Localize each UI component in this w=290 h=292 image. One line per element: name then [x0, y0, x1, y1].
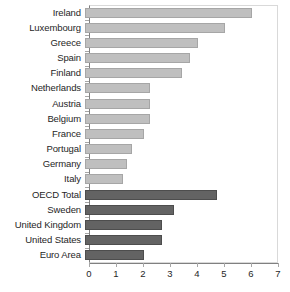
- bar-row: Luxembourg: [0, 20, 290, 35]
- bar-category-label: Germany: [0, 159, 85, 169]
- bar-category-label: Finland: [0, 68, 85, 78]
- y-axis-tick: [85, 172, 89, 173]
- x-axis-tick: [278, 263, 279, 267]
- x-axis-tick: [251, 263, 252, 267]
- y-axis-tick: [85, 202, 89, 203]
- bar: [85, 205, 174, 215]
- bar: [85, 8, 252, 18]
- x-axis-tick-label: 1: [113, 268, 118, 280]
- bar-row: Ireland: [0, 5, 290, 20]
- y-axis-tick: [85, 81, 89, 82]
- bar-track: [85, 233, 290, 248]
- bar-category-label: Italy: [0, 174, 85, 184]
- x-axis-tick-label: 5: [221, 268, 226, 280]
- bar-row: OECD Total: [0, 187, 290, 202]
- bar-row: United States: [0, 233, 290, 248]
- bar: [85, 190, 217, 200]
- bar-category-label: France: [0, 129, 85, 139]
- bar-track: [85, 81, 290, 96]
- y-axis-tick: [85, 20, 89, 21]
- bar: [85, 129, 144, 139]
- y-axis-tick: [85, 51, 89, 52]
- y-axis-tick: [85, 248, 89, 249]
- y-axis-tick: [85, 126, 89, 127]
- bar-row: Austria: [0, 96, 290, 111]
- bar-category-label: OECD Total: [0, 190, 85, 200]
- bar: [85, 114, 150, 124]
- x-axis-tick-label: 7: [275, 268, 280, 280]
- y-axis-tick: [85, 35, 89, 36]
- y-axis-tick: [85, 66, 89, 67]
- bar-category-label: Greece: [0, 38, 85, 48]
- bar-category-label: United States: [0, 235, 85, 245]
- x-axis-tick-label: 2: [140, 268, 145, 280]
- bar: [85, 220, 162, 230]
- x-axis-tick: [116, 263, 117, 267]
- x-axis-tick: [197, 263, 198, 267]
- x-axis-tick-labels: 01234567: [0, 268, 290, 284]
- bar-rows: IrelandLuxembourgGreeceSpainFinlandNethe…: [0, 5, 290, 263]
- bar-track: [85, 187, 290, 202]
- bar-chart: IrelandLuxembourgGreeceSpainFinlandNethe…: [0, 0, 290, 292]
- bar-track: [85, 217, 290, 232]
- x-axis-tick-label: 4: [194, 268, 199, 280]
- bar: [85, 23, 225, 33]
- bar-row: Euro Area: [0, 248, 290, 263]
- bar: [85, 38, 198, 48]
- bar: [85, 144, 132, 154]
- bar-track: [85, 96, 290, 111]
- x-axis-tick-label: 6: [248, 268, 253, 280]
- bar-category-label: Portugal: [0, 144, 85, 154]
- y-axis-tick: [85, 233, 89, 234]
- bar-track: [85, 172, 290, 187]
- y-axis-tick: [85, 157, 89, 158]
- bar-category-label: Ireland: [0, 8, 85, 18]
- bar-track: [85, 142, 290, 157]
- bar-row: France: [0, 126, 290, 141]
- bar-row: Sweden: [0, 202, 290, 217]
- x-axis-tick: [143, 263, 144, 267]
- bar-category-label: Euro Area: [0, 250, 85, 260]
- bar-track: [85, 5, 290, 20]
- bar-category-label: United Kingdom: [0, 220, 85, 230]
- bar-row: Greece: [0, 35, 290, 50]
- bar-row: Italy: [0, 172, 290, 187]
- x-axis-tick: [170, 263, 171, 267]
- x-axis-tick: [224, 263, 225, 267]
- bar-category-label: Austria: [0, 99, 85, 109]
- bar-category-label: Netherlands: [0, 83, 85, 93]
- bar-category-label: Belgium: [0, 114, 85, 124]
- y-axis-tick: [85, 96, 89, 97]
- bar-track: [85, 35, 290, 50]
- bar-row: Netherlands: [0, 81, 290, 96]
- bar-track: [85, 202, 290, 217]
- y-axis-tick: [85, 217, 89, 218]
- x-axis-tick-label: 0: [86, 268, 91, 280]
- bar-row: Belgium: [0, 111, 290, 126]
- bar-row: Finland: [0, 66, 290, 81]
- bar-row: Spain: [0, 51, 290, 66]
- bar-category-label: Luxembourg: [0, 23, 85, 33]
- bar: [85, 53, 190, 63]
- bar: [85, 235, 162, 245]
- bar-track: [85, 111, 290, 126]
- y-axis-tick: [85, 111, 89, 112]
- bar-row: United Kingdom: [0, 217, 290, 232]
- bar: [85, 250, 144, 260]
- bar-category-label: Spain: [0, 53, 85, 63]
- bar-track: [85, 51, 290, 66]
- bar: [85, 159, 127, 169]
- y-axis-tick: [85, 187, 89, 188]
- x-axis-tick: [89, 263, 90, 267]
- bar-track: [85, 20, 290, 35]
- bar-track: [85, 126, 290, 141]
- bar-track: [85, 157, 290, 172]
- bar-row: Portugal: [0, 142, 290, 157]
- bar: [85, 83, 150, 93]
- bar-row: Germany: [0, 157, 290, 172]
- bar: [85, 68, 182, 78]
- bar: [85, 174, 123, 184]
- bar-track: [85, 248, 290, 263]
- bar-category-label: Sweden: [0, 205, 85, 215]
- bar-track: [85, 66, 290, 81]
